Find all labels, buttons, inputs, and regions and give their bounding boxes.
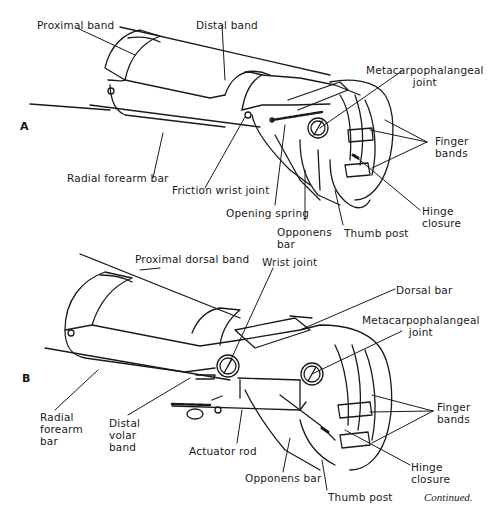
- label-hinge-closure-a: Hinge closure: [422, 205, 461, 229]
- label-wrist-joint: Wrist joint: [262, 256, 317, 268]
- label-metacarpophalangeal-joint-a: Metacarpophalangeal joint: [366, 64, 484, 88]
- label-opponens-bar-b: Opponens bar: [245, 472, 321, 484]
- panel-b-illustration: [45, 254, 392, 470]
- label-thumb-post-a: Thumb post: [344, 227, 409, 239]
- label-actuator-rod: Actuator rod: [189, 445, 257, 457]
- label-radial-forearm-bar-a: Radial forearm bar: [67, 172, 169, 184]
- label-hinge-closure-b: Hinge closure: [411, 461, 450, 485]
- label-proximal-dorsal-band: Proximal dorsal band: [135, 253, 249, 265]
- label-friction-wrist-joint: Friction wrist joint: [172, 184, 270, 196]
- caption-continued: Continued.: [424, 491, 473, 503]
- label-finger-bands-a: Finger bands: [435, 135, 469, 159]
- panel-a-letter: A: [20, 120, 29, 133]
- label-thumb-post-b: Thumb post: [328, 491, 393, 503]
- panel-b-letter: B: [22, 372, 30, 385]
- label-radial-forearm-bar-b: Radial forearm bar: [40, 411, 83, 447]
- label-opening-spring: Opening spring: [226, 207, 309, 219]
- label-metacarpophalangeal-joint-b: Metacarpophalangeal joint: [362, 314, 480, 338]
- label-opponens-bar-a: Opponens bar: [277, 226, 332, 250]
- label-dorsal-bar: Dorsal bar: [396, 284, 452, 296]
- label-proximal-band: Proximal band: [37, 19, 114, 31]
- label-finger-bands-b: Finger bands: [437, 401, 471, 425]
- splint-diagram-figure: A Proximal band Distal band Metacarpopha…: [0, 0, 490, 518]
- label-distal-volar-band: Distal volar band: [109, 417, 140, 453]
- label-distal-band: Distal band: [196, 19, 258, 31]
